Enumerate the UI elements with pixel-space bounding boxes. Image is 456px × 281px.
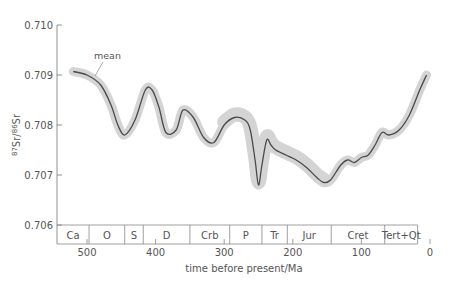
y-axis-label: 87Sr/86Sr: [11, 113, 22, 156]
period-label-tertqt: Tert+Qt: [381, 230, 421, 241]
x-ticks: 5004003002001000: [77, 239, 433, 258]
y-tick-label: 0.708: [24, 120, 53, 131]
y-tick-label: 0.710: [24, 20, 53, 31]
x-tick-label: 200: [283, 247, 302, 258]
sr-isotope-chart: 0.7100.7090.7080.7070.706 87Sr/86Sr CaOS…: [0, 0, 456, 281]
x-axis-label: time before present/Ma: [185, 263, 302, 274]
x-tick-label: 300: [215, 247, 234, 258]
period-label-jur: Jur: [302, 230, 317, 241]
y-tick-label: 0.706: [24, 220, 53, 231]
period-label-p: P: [243, 230, 249, 241]
period-label-tr: Tr: [269, 230, 280, 241]
mean-leader-line: [95, 62, 103, 76]
x-tick-label: 0: [427, 247, 433, 258]
geologic-period-bar: CaOSDCrbPTrJurCretTert+Qt: [57, 225, 421, 244]
period-label-cret: Cret: [347, 230, 368, 241]
period-label-s: S: [131, 230, 137, 241]
mean-annotation: mean: [94, 50, 121, 61]
y-ticks: 0.7100.7090.7080.7070.706: [24, 20, 62, 231]
period-label-ca: Ca: [66, 230, 79, 241]
y-tick-label: 0.707: [24, 170, 53, 181]
x-tick-label: 500: [77, 247, 96, 258]
x-tick-label: 400: [146, 247, 165, 258]
period-label-o: O: [103, 230, 111, 241]
svg-text:87Sr/86Sr: 87Sr/86Sr: [11, 113, 22, 156]
period-label-crb: Crb: [201, 230, 218, 241]
x-tick-label: 100: [352, 247, 371, 258]
period-label-d: D: [163, 230, 171, 241]
y-tick-label: 0.709: [24, 70, 53, 81]
